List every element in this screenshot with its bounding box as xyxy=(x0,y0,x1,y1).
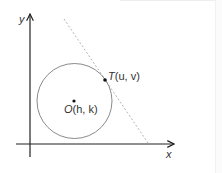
circle-tangent-diagram: y x O(h, k) T(u, v) xyxy=(0,0,222,173)
tangent-point-coords: (u, v) xyxy=(115,70,140,82)
y-axis-label: y xyxy=(18,13,26,25)
tangent-point xyxy=(103,78,107,82)
center-label: O(h, k) xyxy=(64,103,98,115)
center-coords: (h, k) xyxy=(73,103,98,115)
x-axis-label: x xyxy=(165,148,172,160)
tangent-point-label: T(u, v) xyxy=(108,70,140,82)
